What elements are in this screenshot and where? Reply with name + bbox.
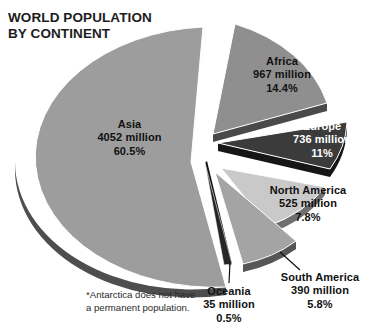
footnote-antarctica: *Antarctica does not have a permanent po… [86,288,226,314]
slice-percent-south-america: 5.8% [265,298,375,311]
slice-name-africa: Africa [222,55,342,68]
slice-label-south-america: South America 390 million 5.8% [265,271,375,311]
slice-name-europe: Europe [272,120,372,133]
slice-name-asia: Asia [62,118,197,131]
slice-percent-north-america: 7.8% [248,211,368,224]
slice-label-africa: Africa 967 million 14.4% [222,55,342,95]
slice-value-north-america: 525 million [248,197,368,210]
slice-percent-africa: 14.4% [222,82,342,95]
slice-label-asia: Asia 4052 million 60.5% [62,118,197,158]
slice-value-south-america: 390 million [265,284,375,297]
slice-value-africa: 967 million [222,68,342,81]
slice-percent-asia: 60.5% [62,145,197,158]
pie-chart-figure: WORLD POPULATION BY CONTINENT [0,0,375,333]
slice-value-asia: 4052 million [62,131,197,144]
slice-label-north-america: North America 525 million 7.8% [248,184,368,224]
slice-label-europe: Europe 736 million 11% [272,120,372,160]
slice-percent-europe: 11% [272,147,372,160]
leader-line-south-america [280,252,300,270]
slice-name-north-america: North America [248,184,368,197]
slice-value-europe: 736 million [272,133,372,146]
slice-name-south-america: South America [265,271,375,284]
